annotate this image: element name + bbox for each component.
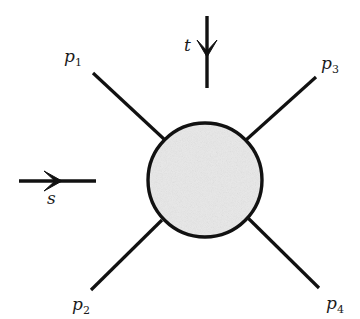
label-p1-symbol: p <box>64 46 75 66</box>
label-t: t <box>184 37 191 54</box>
label-p4-symbol: p <box>326 293 337 313</box>
label-p1-index: 1 <box>75 56 82 69</box>
label-p4: p4 <box>326 295 344 315</box>
label-s: s <box>47 190 56 207</box>
label-p3: p3 <box>321 55 339 75</box>
label-p2: p2 <box>72 296 90 316</box>
label-p3-symbol: p <box>321 53 332 73</box>
label-p4-index: 4 <box>337 303 344 316</box>
leg-p3 <box>246 77 316 140</box>
leg-p2 <box>91 220 162 290</box>
t-channel-arrow <box>197 16 217 88</box>
label-p2-symbol: p <box>72 294 83 314</box>
s-channel-arrow <box>19 171 96 191</box>
label-p1: p1 <box>64 48 82 68</box>
scattering-diagram <box>0 0 360 319</box>
label-p3-index: 3 <box>332 63 339 76</box>
label-p2-index: 2 <box>83 304 90 317</box>
leg-p4 <box>248 218 319 288</box>
interaction-blob <box>148 123 262 237</box>
leg-p1 <box>93 73 165 140</box>
